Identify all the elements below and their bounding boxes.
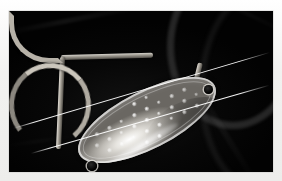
photograph xyxy=(9,11,273,172)
screenshot-root xyxy=(0,0,282,181)
bottom-eyelet xyxy=(87,161,97,171)
spoon-blade-highlight xyxy=(101,119,180,172)
top-eyelet xyxy=(204,85,213,94)
